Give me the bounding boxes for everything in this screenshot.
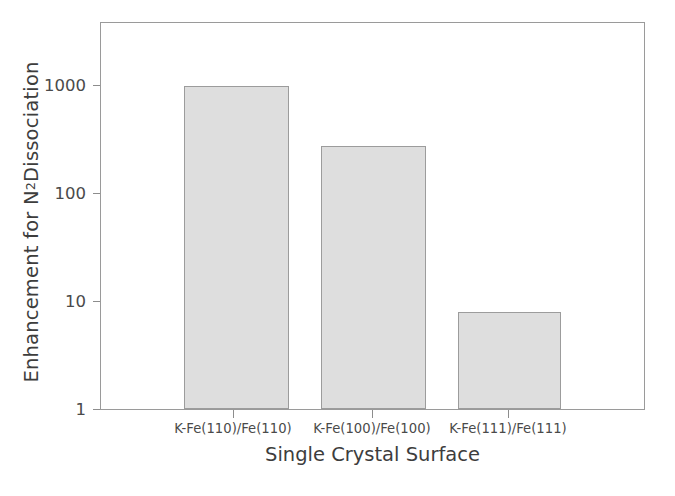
y-tick-mark-10	[93, 301, 100, 302]
y-tick-mark-100	[93, 193, 100, 194]
y-tick-mark-1	[93, 409, 100, 410]
y-tick-label-10: 10	[4, 292, 86, 311]
x-tick-label-k-fe-100: K-Fe(100)/Fe(100)	[313, 421, 430, 436]
y-tick-label-100: 100	[4, 184, 86, 203]
y-tick-label-1000: 1000	[4, 76, 86, 95]
x-tick-mark-k-fe-111	[508, 410, 509, 418]
x-axis-title: Single Crystal Surface	[100, 443, 645, 466]
x-tick-label-k-fe-110: K-Fe(110)/Fe(110)	[174, 421, 291, 436]
y-axis-title-prefix: Enhancement for N	[20, 190, 43, 382]
bar-k-fe-100	[321, 146, 426, 409]
x-tick-label-k-fe-111: K-Fe(111)/Fe(111)	[449, 421, 566, 436]
y-tick-mark-1000	[93, 85, 100, 86]
x-tick-mark-k-fe-100	[372, 410, 373, 418]
x-tick-mark-k-fe-110	[233, 410, 234, 418]
y-tick-label-1: 1	[4, 400, 86, 419]
chart-figure: Enhancement for N2 Dissociation 1000 100…	[0, 0, 675, 496]
bar-k-fe-111	[458, 312, 561, 409]
plot-area	[100, 22, 645, 410]
bar-k-fe-110	[184, 86, 289, 409]
